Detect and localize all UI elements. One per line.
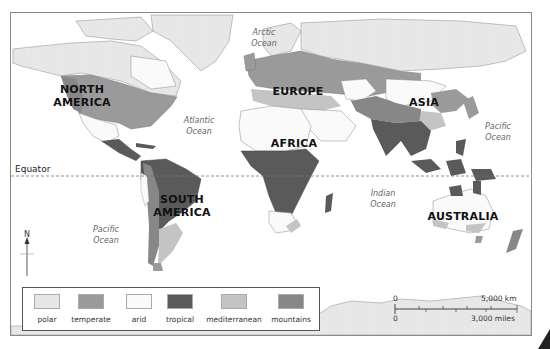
ocean-label-line: Indian	[358, 188, 408, 199]
ocean-label-line: Pacific	[473, 121, 523, 132]
legend-swatch-polar	[34, 294, 60, 309]
scale-bar: 0 5,000 km 0 3,000 miles	[393, 294, 523, 326]
legend-item-arid: arid	[119, 294, 159, 324]
north-label: N	[24, 230, 30, 239]
legend-label: mediterranean	[203, 315, 265, 324]
legend-item-mediterranean: mediterranean	[203, 294, 265, 324]
ocean-label-line: Ocean	[358, 199, 408, 210]
page-corner	[538, 329, 550, 349]
continent-label-line: SOUTH	[147, 193, 217, 206]
legend-label: mountains	[266, 315, 316, 324]
equator-label: Equator	[15, 164, 50, 174]
ocean-label-line: Ocean	[239, 38, 289, 49]
legend-item-temperate: temperate	[67, 294, 115, 324]
scale-mi-zero: 0	[393, 314, 398, 323]
continent-label-north-america: NORTH AMERICA	[47, 83, 117, 109]
scale-mi-label: 3,000 miles	[471, 314, 515, 323]
ocean-label-pacific-east: Pacific Ocean	[473, 121, 523, 143]
ocean-label-indian: Indian Ocean	[358, 188, 408, 210]
continent-label-line: NORTH	[47, 83, 117, 96]
ocean-label-line: Ocean	[174, 126, 224, 137]
scale-km-zero: 0	[393, 294, 398, 303]
legend-swatch-arid	[126, 294, 152, 309]
legend-label: temperate	[67, 315, 115, 324]
legend-swatch-temperate	[78, 294, 104, 309]
south-asia-tropical	[371, 119, 431, 156]
ocean-label-line: Ocean	[473, 132, 523, 143]
continent-label-line: AMERICA	[147, 206, 217, 219]
continent-label-line: AMERICA	[47, 96, 117, 109]
legend-item-tropical: tropical	[158, 294, 202, 324]
continent-label-africa: AFRICA	[259, 137, 329, 150]
legend-item-polar: polar	[27, 294, 67, 324]
continent-label-asia: ASIA	[394, 96, 454, 109]
africa-tropical	[241, 149, 319, 216]
legend-label: polar	[27, 315, 67, 324]
ocean-label-atlantic: Atlantic Ocean	[174, 115, 224, 137]
ocean-label-line: Arctic	[239, 27, 289, 38]
legend: polar temperate arid tropical mediterran…	[22, 287, 320, 331]
continent-label-south-america: SOUTH AMERICA	[147, 193, 217, 219]
legend-label: arid	[119, 315, 159, 324]
north-arrow-icon	[20, 237, 34, 276]
scale-km-label: 5,000 km	[481, 294, 517, 303]
ocean-label-arctic: Arctic Ocean	[239, 27, 289, 49]
ocean-label-pacific-south: Pacific Ocean	[81, 224, 131, 246]
ocean-label-line: Atlantic	[174, 115, 224, 126]
legend-swatch-mediterranean	[221, 294, 247, 309]
legend-swatch-tropical	[167, 294, 193, 309]
legend-swatch-mountains	[278, 294, 304, 309]
legend-item-mountains: mountains	[266, 294, 316, 324]
continent-label-europe: EUROPE	[263, 85, 333, 98]
continent-label-australia: AUSTRALIA	[423, 210, 503, 223]
ocean-label-line: Pacific	[81, 224, 131, 235]
ocean-label-line: Ocean	[81, 235, 131, 246]
legend-label: tropical	[158, 315, 202, 324]
